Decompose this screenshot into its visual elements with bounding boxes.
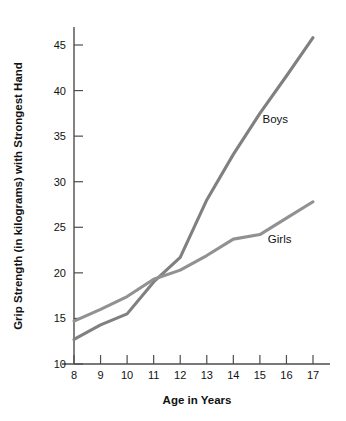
x-tick-label: 15: [254, 369, 266, 381]
y-tick-label: 30: [54, 176, 66, 188]
x-tick-label: 16: [280, 369, 292, 381]
y-tick-label: 45: [54, 39, 66, 51]
x-tick-label: 13: [201, 369, 213, 381]
x-tick-label: 9: [97, 369, 103, 381]
x-tick-label: 17: [307, 369, 319, 381]
x-tick-label: 14: [227, 369, 239, 381]
x-tick-label: 8: [71, 369, 77, 381]
y-tick-label: 10: [54, 358, 66, 370]
series-label-boys: Boys: [263, 113, 289, 125]
y-tick-label: 20: [54, 267, 66, 279]
x-tick-label: 10: [121, 369, 133, 381]
y-axis-title: Grip Strength (in kilograms) with Strong…: [12, 62, 24, 330]
chart-canvas: 1015202530354045 891011121314151617 Boys…: [0, 0, 346, 421]
grip-strength-line-chart: 1015202530354045 891011121314151617 Boys…: [0, 0, 346, 421]
y-tick-label: 25: [54, 221, 66, 233]
y-tick-label: 35: [54, 130, 66, 142]
y-tick-label: 15: [54, 312, 66, 324]
y-tick-label: 40: [54, 85, 66, 97]
x-tick-label: 11: [148, 369, 159, 381]
x-axis-title: Age in Years: [163, 394, 232, 406]
x-tick-label: 12: [174, 369, 186, 381]
series-label-girls: Girls: [268, 233, 292, 245]
